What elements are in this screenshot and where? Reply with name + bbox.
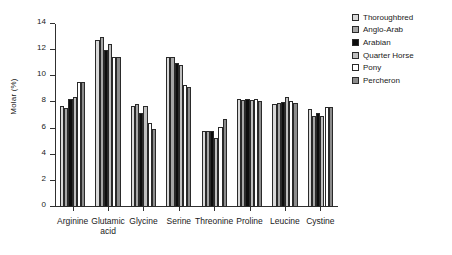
legend-item[interactable]: Anglo-Arab: [352, 24, 452, 37]
x-category-label: Cystine: [297, 216, 344, 226]
y-tick-label: 2: [42, 174, 46, 183]
legend-swatch-icon: [352, 52, 359, 59]
x-tick-mark: [285, 207, 286, 211]
legend-label: Pony: [363, 63, 381, 72]
bar-chart: Molar (%) 02468101214 ArginineGlutamic a…: [0, 0, 452, 255]
legend-swatch-icon: [352, 77, 359, 84]
legend-item[interactable]: Thoroughbred: [352, 11, 452, 24]
x-tick-mark: [179, 207, 180, 211]
y-tick: 0: [50, 206, 55, 207]
y-tick-mark: [50, 206, 55, 207]
x-tick-mark: [108, 207, 109, 211]
y-tick-label: 4: [42, 148, 46, 157]
y-tick-mark: [50, 180, 55, 181]
plot-area: 02468101214: [55, 24, 338, 207]
bar: [187, 87, 191, 207]
bar: [258, 101, 262, 207]
y-tick-mark: [50, 101, 55, 102]
y-tick-label: 12: [37, 43, 46, 52]
x-tick-mark: [214, 207, 215, 211]
bar: [293, 103, 297, 207]
y-tick: 12: [50, 49, 55, 50]
bar-group: [95, 24, 120, 207]
y-tick-label: 10: [37, 69, 46, 78]
legend-label: Thoroughbred: [363, 13, 413, 22]
bar-group: [131, 24, 156, 207]
y-tick-mark: [50, 23, 55, 24]
bar: [152, 129, 156, 207]
legend-item[interactable]: Pony: [352, 61, 452, 74]
y-tick-mark: [50, 154, 55, 155]
y-tick: 8: [50, 101, 55, 102]
legend-swatch-icon: [352, 26, 359, 33]
y-tick-label: 0: [42, 200, 46, 209]
legend-label: Arabian: [363, 38, 391, 47]
y-tick: 6: [50, 128, 55, 129]
y-tick-mark: [50, 75, 55, 76]
y-tick-label: 6: [42, 122, 46, 131]
legend-swatch-icon: [352, 39, 359, 46]
legend-item[interactable]: Percheron: [352, 74, 452, 87]
y-tick-label: 8: [42, 95, 46, 104]
bar: [329, 107, 333, 207]
y-tick-label: 14: [37, 17, 46, 26]
bar-group: [272, 24, 297, 207]
legend-label: Quarter Horse: [363, 51, 414, 60]
legend-label: Percheron: [363, 76, 400, 85]
bar-group: [166, 24, 191, 207]
chart-legend: ThoroughbredAnglo-ArabArabianQuarter Hor…: [352, 11, 452, 87]
legend-item[interactable]: Arabian: [352, 36, 452, 49]
bar-group: [237, 24, 262, 207]
y-axis-line: [55, 24, 56, 207]
y-tick: 4: [50, 154, 55, 155]
y-tick: 14: [50, 23, 55, 24]
legend-item[interactable]: Quarter Horse: [352, 49, 452, 62]
y-tick: 10: [50, 75, 55, 76]
bar-group: [202, 24, 227, 207]
y-tick: 2: [50, 180, 55, 181]
y-axis-title: Molar (%): [9, 62, 18, 132]
bar: [81, 82, 85, 207]
bar: [116, 57, 120, 207]
legend-swatch-icon: [352, 64, 359, 71]
x-tick-mark: [320, 207, 321, 211]
bar-group: [308, 24, 333, 207]
bar: [223, 119, 227, 207]
y-tick-mark: [50, 49, 55, 50]
x-tick-mark: [250, 207, 251, 211]
bar-group: [60, 24, 85, 207]
y-tick-mark: [50, 128, 55, 129]
legend-swatch-icon: [352, 14, 359, 21]
x-tick-mark: [143, 207, 144, 211]
x-tick-mark: [73, 207, 74, 211]
legend-label: Anglo-Arab: [363, 25, 403, 34]
